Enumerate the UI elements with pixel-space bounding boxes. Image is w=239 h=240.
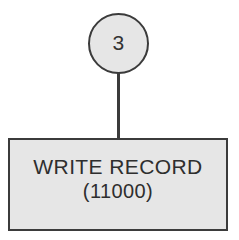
connector-circle-label: 3 xyxy=(113,32,125,53)
process-box-title: WRITE RECORD xyxy=(33,154,202,179)
diagram-canvas: 3 WRITE RECORD (11000) xyxy=(0,0,239,240)
process-box: WRITE RECORD (11000) xyxy=(8,138,228,231)
connector-line-vertical xyxy=(117,73,120,140)
process-box-subtitle: (11000) xyxy=(83,179,153,204)
off-page-connector-circle: 3 xyxy=(88,13,149,74)
